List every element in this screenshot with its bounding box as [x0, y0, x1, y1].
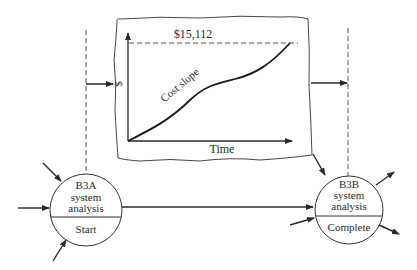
b3b-output-arrow-top	[376, 172, 394, 185]
node-b3a: B3A system analysis Start	[50, 174, 122, 246]
b3a-input-arrow-bottom	[53, 240, 66, 261]
x-axis-label: Time	[210, 142, 235, 156]
node-b3a-line3: analysis	[68, 202, 103, 214]
b3b-output-arrow-bottom	[379, 225, 399, 234]
y-axis-label: $	[112, 81, 124, 87]
node-b3b: B3B system analysis Complete	[315, 176, 383, 244]
b3b-input-arrow-top	[313, 154, 325, 175]
chart-box-border	[114, 16, 312, 161]
node-b3b-line3: analysis	[331, 200, 366, 212]
node-b3b-status: Complete	[328, 221, 371, 233]
b3a-input-arrow-top	[43, 163, 61, 181]
node-b3a-status: Start	[76, 223, 97, 235]
value-label: $15,112	[174, 27, 213, 41]
diagram-canvas: $15,112 $ Time Cost slope B3A system ana…	[0, 0, 417, 270]
node-b3a-id: B3A	[76, 179, 97, 191]
b3b-input-arrow-bottom	[290, 218, 314, 225]
